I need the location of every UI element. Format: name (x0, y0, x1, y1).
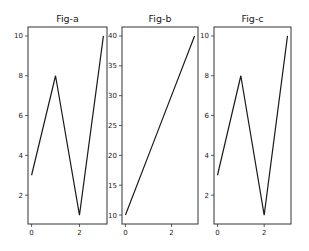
x-tick-label: 2 (169, 229, 173, 237)
axes-frame (28, 27, 107, 224)
y-tick-label: 25 (108, 122, 117, 130)
y-tick-label: 8 (205, 72, 209, 80)
y-tick-label: 15 (108, 182, 117, 190)
x-tick-label: 0 (123, 229, 127, 237)
x-tick-label: 2 (77, 229, 81, 237)
figure: Fig-a 24681002 Fig-b 1015202530354002 Fi… (0, 0, 309, 251)
y-tick-label: 35 (108, 62, 117, 70)
series-line (32, 36, 104, 215)
y-tick-label: 40 (108, 32, 117, 40)
subplot-title: Fig-c (241, 13, 263, 24)
y-tick-label: 4 (205, 152, 210, 160)
y-tick-label: 2 (19, 192, 23, 200)
series-line (218, 36, 288, 215)
y-tick-label: 6 (19, 112, 24, 120)
x-tick-label: 2 (262, 229, 266, 237)
series-line (125, 36, 194, 215)
subplot-c: Fig-c 24681002 (200, 13, 291, 237)
x-tick-label: 0 (215, 229, 219, 237)
subplot-a: Fig-a 24681002 (14, 13, 107, 237)
subplot-title: Fig-a (56, 13, 79, 24)
y-tick-label: 10 (108, 212, 117, 220)
subplot-title: Fig-b (149, 13, 172, 24)
y-tick-label: 20 (108, 152, 117, 160)
y-tick-label: 8 (19, 72, 23, 80)
y-tick-label: 10 (14, 32, 23, 40)
y-tick-label: 4 (19, 152, 24, 160)
y-tick-label: 30 (108, 92, 117, 100)
y-tick-label: 6 (205, 112, 210, 120)
y-tick-label: 10 (200, 32, 209, 40)
x-tick-label: 0 (29, 229, 33, 237)
axes-frame (214, 27, 291, 224)
y-tick-label: 2 (205, 192, 209, 200)
subplot-b: Fig-b 1015202530354002 (108, 13, 198, 237)
